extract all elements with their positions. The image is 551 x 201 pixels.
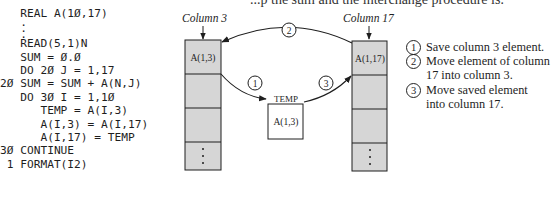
legend-item-1: 1 Save column 3 element. (406, 40, 550, 54)
legend-step-1-badge: 1 (406, 40, 421, 55)
legend-step-2-text: Move element of column (426, 54, 550, 68)
legend-step-2-badge: 2 (406, 54, 421, 69)
column-3-cells: A(1,3) (185, 40, 221, 170)
column-17-label: Column 17 (343, 12, 395, 24)
vertical-ellipsis-icon (202, 148, 204, 150)
step-legend: 1 Save column 3 element. 2 Move element … (406, 40, 550, 111)
legend-item-3: 3 Move saved element into column 17. (406, 83, 550, 111)
vertical-ellipsis-icon (369, 149, 371, 151)
step-2-number: 2 (287, 26, 292, 36)
temp-label: TEMP (274, 94, 298, 104)
step-1-number: 1 (253, 79, 258, 89)
legend-step-3-text: Move saved element (426, 83, 528, 97)
legend-item-2: 2 Move element of column 17 into column … (406, 54, 550, 82)
column-3-label: Column 3 (182, 12, 227, 24)
column-17-cell-a117: A(1,17) (355, 54, 385, 65)
temp-cell-a13: A(1,3) (273, 117, 298, 128)
legend-step-3-badge: 3 (406, 83, 421, 98)
legend-step-2-text-cont: 17 into column 3. (426, 68, 513, 82)
column-17-cells: A(1,17) (352, 41, 387, 171)
legend-step-3-text-cont: into column 17. (426, 97, 504, 111)
legend-step-1-text: Save column 3 element. (426, 40, 544, 54)
column-3-cell-a13: A(1,3) (190, 53, 215, 64)
step-3-number: 3 (324, 79, 329, 89)
